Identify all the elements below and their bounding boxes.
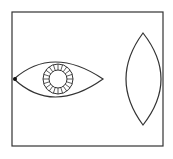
eye-lens-diagram: [0, 0, 173, 159]
convex-lens: [126, 33, 161, 125]
iris-spoke: [44, 82, 50, 84]
iris-spoke: [65, 70, 70, 74]
iris-spoke: [61, 65, 63, 71]
iris-spoke: [67, 74, 73, 76]
iris-spoke: [67, 82, 73, 84]
iris-spoke: [44, 74, 50, 76]
iris-spoke: [49, 67, 53, 72]
frame: [12, 12, 163, 146]
iris-spoke: [53, 65, 55, 71]
iris-spoke: [53, 88, 55, 94]
iris-spoke: [46, 84, 51, 88]
iris-spoke: [61, 88, 63, 94]
pupil: [49, 70, 67, 88]
iris-spoke: [65, 84, 70, 88]
iris-spoke: [46, 70, 51, 74]
eye-outline: [14, 62, 103, 97]
iris-spoke: [63, 86, 67, 91]
iris-spoke: [63, 67, 67, 72]
iris-spoke: [49, 86, 53, 91]
eye-icon: [13, 62, 103, 97]
eye-corner-dot: [13, 77, 17, 81]
